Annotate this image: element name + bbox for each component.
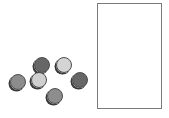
empty-container-rectangle [97,3,162,109]
disc-middle-light [31,72,47,88]
disc-upper-dark [34,57,50,73]
disc-upper-light [56,57,72,73]
disc-right-dark [72,72,88,88]
disc-left-gray [10,74,26,90]
disc-bottom-gray [47,88,63,104]
